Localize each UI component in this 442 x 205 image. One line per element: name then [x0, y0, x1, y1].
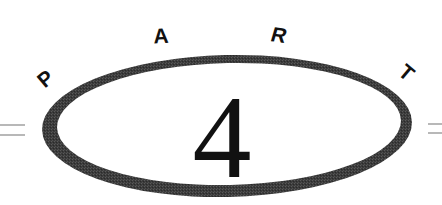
part-emblem: P A R T 4: [0, 0, 442, 205]
letter-a: A: [153, 24, 169, 48]
part-heading: P A R T 4: [0, 0, 442, 205]
part-number: 4: [193, 72, 252, 203]
